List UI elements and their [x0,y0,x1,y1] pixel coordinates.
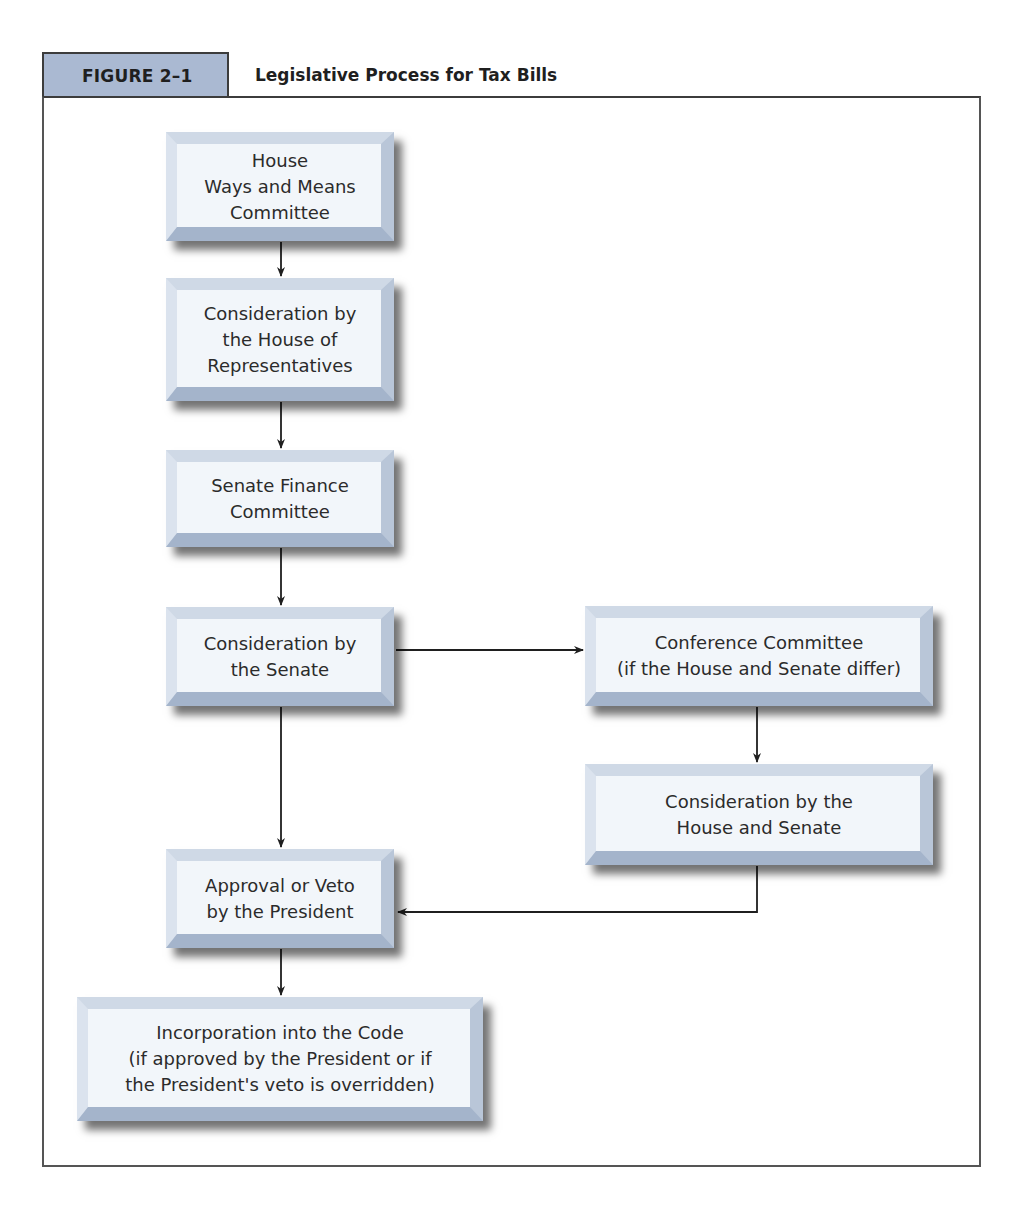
node-senate-consideration: Consideration by the Senate [166,607,394,706]
node-label: Senate Finance Committee [166,450,394,547]
node-label: Approval or Veto by the President [166,849,394,948]
node-label: Consideration by the Senate [166,607,394,706]
node-label: House Ways and Means Committee [166,132,394,241]
figure-title: Legislative Process for Tax Bills [255,52,557,97]
node-president: Approval or Veto by the President [166,849,394,948]
figure-number: FIGURE 2–1 [82,66,192,86]
node-ways-and-means: House Ways and Means Committee [166,132,394,241]
node-label: Conference Committee (if the House and S… [585,606,933,706]
node-senate-finance: Senate Finance Committee [166,450,394,547]
node-label: Consideration by the House and Senate [585,764,933,865]
node-conference-committee: Conference Committee (if the House and S… [585,606,933,706]
node-house-senate-consideration: Consideration by the House and Senate [585,764,933,865]
node-label: Incorporation into the Code (if approved… [77,997,483,1121]
node-code-incorporation: Incorporation into the Code (if approved… [77,997,483,1121]
node-label: Consideration by the House of Representa… [166,278,394,401]
figure-number-tab: FIGURE 2–1 [42,52,229,97]
node-house-consideration: Consideration by the House of Representa… [166,278,394,401]
